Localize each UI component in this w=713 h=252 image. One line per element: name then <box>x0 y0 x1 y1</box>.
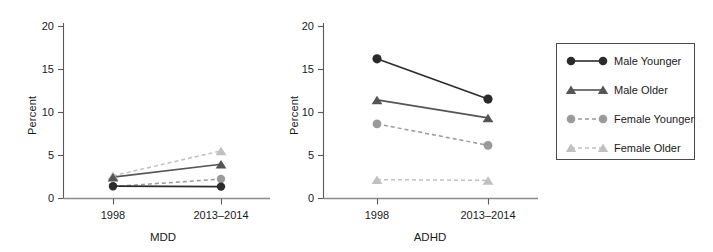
adhd-line-male-younger <box>377 59 488 99</box>
chart-panel-adhd: Percent 20 15 10 5 0 1998 2013–2014 ADHD <box>290 0 550 252</box>
mdd-line-male-younger <box>113 186 221 187</box>
adhd-x-axis-label: ADHD <box>380 231 480 243</box>
adhd-ytick-label-15: 15 <box>288 63 314 75</box>
mdd-xtick-label-1998: 1998 <box>83 209 143 221</box>
mdd-x-axis-label: MDD <box>113 231 213 243</box>
mdd-ytick-label-10: 10 <box>28 106 54 118</box>
mdd-ytick-label-15: 15 <box>28 63 54 75</box>
legend-label-male-younger: Male Younger <box>614 55 681 67</box>
adhd-marker-female-younger-2013 <box>484 141 493 150</box>
figure: Percent 20 15 10 5 0 1998 2013–2014 MDD <box>0 0 713 252</box>
mdd-ytick-label-0: 0 <box>28 192 54 204</box>
legend-label-female-older: Female Older <box>614 142 681 154</box>
adhd-ytick-label-0: 0 <box>288 192 314 204</box>
legend-swatch-male-younger-icon <box>564 53 610 69</box>
adhd-marker-male-younger-1998 <box>372 54 381 63</box>
adhd-marker-male-younger-2013 <box>483 95 492 104</box>
legend-item-female-older[interactable]: Female Older <box>557 135 694 161</box>
legend-item-male-older[interactable]: Male Older <box>557 77 694 103</box>
legend-item-female-younger[interactable]: Female Younger <box>557 106 694 132</box>
mdd-marker-female-younger-2013 <box>217 175 225 183</box>
legend-label-female-younger: Female Younger <box>614 113 694 125</box>
adhd-xtick-label-2013-2014: 2013–2014 <box>448 209 528 221</box>
adhd-line-female-younger <box>377 124 488 145</box>
legend-swatch-female-younger-icon <box>564 111 610 127</box>
legend-item-male-younger[interactable]: Male Younger <box>557 48 694 74</box>
mdd-marker-female-older-2013 <box>216 147 227 156</box>
mdd-line-male-older <box>113 164 221 177</box>
legend-swatch-female-older-icon <box>564 140 610 156</box>
adhd-line-male-older <box>377 100 488 118</box>
chart-legend: Male Younger Male Older Female Young <box>556 43 695 160</box>
mdd-line-female-older <box>113 151 221 176</box>
mdd-xtick-label-2013-2014: 2013–2014 <box>181 209 261 221</box>
legend-swatch-male-older-icon <box>564 82 610 98</box>
mdd-marker-male-younger-2013 <box>217 182 225 190</box>
legend-label-male-older: Male Older <box>614 84 668 96</box>
mdd-marker-male-younger-1998 <box>109 182 117 190</box>
adhd-marker-female-younger-1998 <box>373 120 382 129</box>
adhd-ytick-label-5: 5 <box>288 149 314 161</box>
adhd-line-female-older <box>377 180 488 181</box>
chart-panel-mdd: Percent 20 15 10 5 0 1998 2013–2014 MDD <box>0 0 290 252</box>
adhd-ytick-label-10: 10 <box>288 106 314 118</box>
adhd-ytick-label-20: 20 <box>288 20 314 32</box>
adhd-xtick-label-1998: 1998 <box>347 209 407 221</box>
mdd-ytick-label-5: 5 <box>28 149 54 161</box>
mdd-ytick-label-20: 20 <box>28 20 54 32</box>
